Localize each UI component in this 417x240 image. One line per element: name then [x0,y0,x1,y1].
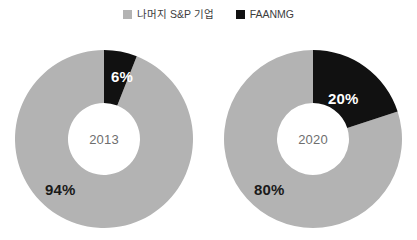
donut-chart-figure: 나머지 S&P 기업 FAANMG 2013 6% 94% 2020 [0,0,417,240]
square-swatch-icon [123,10,132,19]
square-swatch-icon [236,10,245,19]
legend-label-faanmg: FAANMG [250,9,294,20]
chart-legend: 나머지 S&P 기업 FAANMG [0,9,417,20]
legend-item-rest-sp: 나머지 S&P 기업 [123,9,214,20]
legend-item-faanmg: FAANMG [236,9,294,20]
donut-2020-svg [224,50,402,228]
donut-chart-2013: 2013 6% 94% [15,50,193,228]
donut-2013-svg [15,50,193,228]
donut-slice-rest-2013 [15,50,193,228]
donut-chart-2020: 2020 20% 80% [224,50,402,228]
legend-label-rest-sp: 나머지 S&P 기업 [137,9,214,20]
